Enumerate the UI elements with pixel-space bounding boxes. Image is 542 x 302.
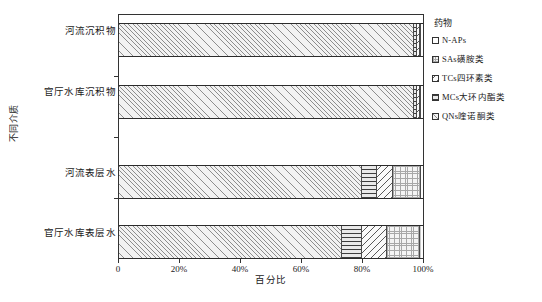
bar-segment-qns — [119, 24, 414, 56]
legend-item-mcs[interactable]: MCs大环内酯类 — [432, 92, 540, 103]
stacked-bar — [119, 23, 423, 57]
legend-item-tcs[interactable]: TCs四环素类 — [432, 73, 540, 84]
bar-segment-mcs — [342, 226, 362, 258]
bar-segment-tcs — [377, 166, 392, 198]
y-axis-tick-labels: 河流沉积物 官厅水库沉积物 河流表层水 官厅水库表层水 — [18, 0, 116, 302]
bar-segment-naps — [421, 24, 423, 56]
legend-label-tcs: TCs四环素类 — [442, 73, 494, 84]
y-minor-tick-1 — [114, 137, 119, 138]
x-tick-3 — [301, 258, 302, 263]
x-tick-5 — [423, 258, 424, 263]
bar-segment-naps — [421, 166, 423, 198]
bar-segment-sas — [393, 166, 422, 198]
stacked-bar — [119, 165, 423, 199]
chart-legend: 药物 N-APs SAs磺胺类 TCs四环素类 MCs大环内酯类 QNs喹诺酮类 — [432, 18, 540, 130]
x-tick-0 — [118, 258, 119, 263]
y-tick-label-0: 河流沉积物 — [20, 26, 116, 37]
stacked-bar — [119, 85, 423, 119]
legend-item-sas[interactable]: SAs磺胺类 — [432, 54, 540, 65]
bar-segment-qns — [119, 166, 362, 198]
legend-swatch-qns-icon — [432, 113, 439, 120]
y-tick-label-2: 河流表层水 — [20, 168, 116, 179]
legend-label-sas: SAs磺胺类 — [442, 54, 484, 65]
x-tick-2 — [240, 258, 241, 263]
legend-swatch-mcs-icon — [432, 94, 439, 101]
bar-row-reservoir-surface-water — [119, 225, 423, 259]
x-tick-1 — [179, 258, 180, 263]
bar-segment-naps — [421, 86, 423, 118]
y-tick-label-3: 官厅水库表层水 — [20, 228, 116, 239]
legend-label-mcs: MCs大环内酯类 — [442, 92, 505, 103]
y-tick-label-1: 官厅水库沉积物 — [20, 87, 116, 98]
legend-title: 药物 — [434, 18, 540, 29]
bar-segment-qns — [119, 226, 342, 258]
bar-segment-naps — [420, 226, 423, 258]
legend-item-naps[interactable]: N-APs — [432, 35, 540, 46]
bar-row-reservoir-sediment — [119, 85, 423, 119]
legend-swatch-sas-icon — [432, 56, 439, 63]
y-minor-tick-0 — [114, 76, 119, 77]
plot-area — [118, 14, 424, 258]
bar-segment-qns — [119, 86, 414, 118]
stacked-bar — [119, 225, 423, 259]
chart-figure: 不同介质 河流沉积物 官厅水库沉积物 河流表层水 官厅水库表层水 — [0, 0, 542, 302]
bar-segment-sas — [387, 226, 420, 258]
bar-segment-tcs — [362, 226, 386, 258]
legend-item-qns[interactable]: QNs喹诺酮类 — [432, 111, 540, 122]
x-axis-title: 百分比 — [118, 272, 424, 286]
legend-label-qns: QNs喹诺酮类 — [442, 111, 495, 122]
legend-label-naps: N-APs — [442, 35, 466, 46]
x-tick-4 — [362, 258, 363, 263]
bar-row-river-sediment — [119, 23, 423, 57]
bar-row-river-surface-water — [119, 165, 423, 199]
legend-swatch-naps-icon — [432, 37, 439, 44]
bar-segment-mcs — [362, 166, 377, 198]
legend-swatch-tcs-icon — [432, 75, 439, 82]
